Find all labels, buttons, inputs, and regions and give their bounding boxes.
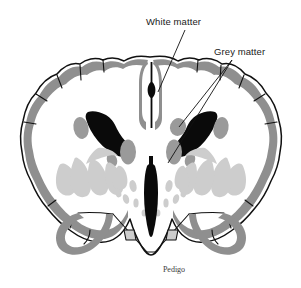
midbrain-speck-right-3 (163, 199, 168, 208)
septum-slit (149, 156, 153, 168)
midbrain-speck-left-3 (133, 199, 138, 208)
credit-text: Pedigo (163, 265, 185, 274)
thalamus-right (166, 140, 182, 165)
brain-coronal-section-figure: White matter Grey matter Pedigo (0, 0, 301, 288)
label-grey-matter: Grey matter (214, 46, 265, 57)
thalamus-left (120, 140, 136, 165)
label-white-matter: White matter (146, 16, 201, 27)
